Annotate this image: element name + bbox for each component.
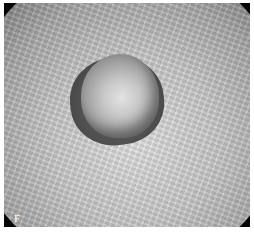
panel-label: F — [14, 212, 20, 224]
endoscopy-frame: F — [4, 3, 250, 227]
figure: F — [0, 0, 254, 232]
polypoid-lesion — [81, 54, 159, 138]
